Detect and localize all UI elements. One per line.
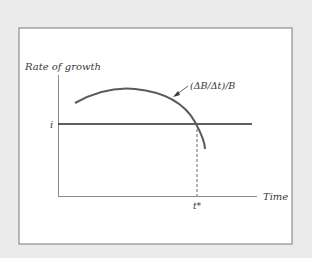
t-star-label: t* xyxy=(193,201,202,211)
y-axis-label: Rate of growth xyxy=(24,61,101,72)
i-label: i xyxy=(50,119,53,130)
growth-rate-diagram: Rate of growth i (ΔB/Δt)/B Time t* xyxy=(0,0,312,258)
x-axis-label: Time xyxy=(263,191,288,202)
curve-label: (ΔB/Δt)/B xyxy=(190,80,235,91)
